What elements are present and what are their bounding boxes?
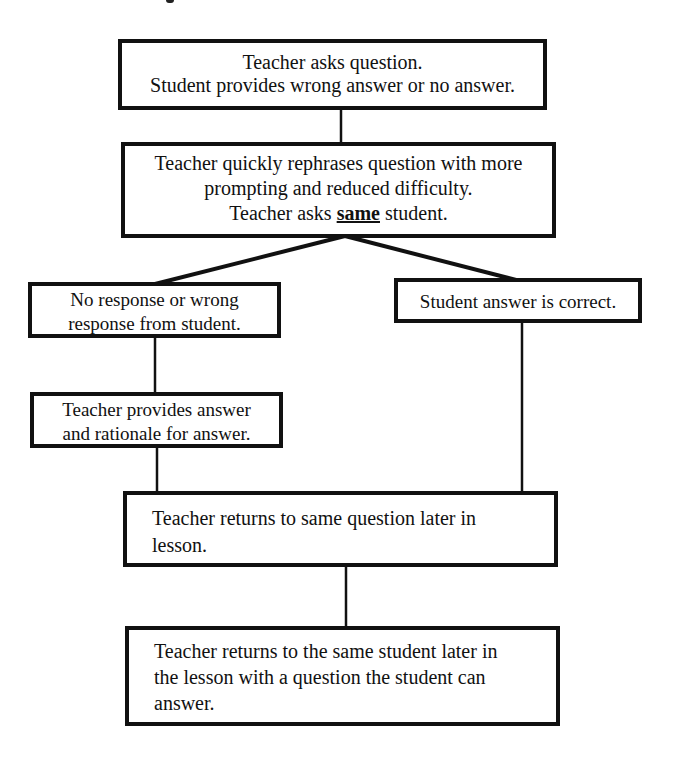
node-wrong-response: No response or wrong response from stude… — [28, 282, 281, 338]
node-text: No response or wrong — [32, 288, 277, 312]
node-text: the lesson with a question the student c… — [154, 664, 556, 690]
node-text: Teacher asks question. — [122, 51, 543, 74]
node-teacher-rephrases: Teacher quickly rephrases question with … — [121, 142, 556, 238]
node-text: response from student. — [32, 312, 277, 336]
node-text: answer. — [154, 690, 556, 716]
node-text: Student provides wrong answer or no answ… — [122, 74, 543, 97]
node-return-same-question: Teacher returns to same question later i… — [123, 491, 558, 567]
node-answer-correct: Student answer is correct. — [394, 278, 642, 323]
node-text: and rationale for answer. — [34, 422, 279, 446]
edge-rephrase-correct — [345, 236, 520, 281]
node-text: prompting and reduced difficulty. — [125, 176, 552, 201]
node-teacher-provides-answer: Teacher provides answer and rationale fo… — [30, 392, 283, 448]
node-text: lesson. — [152, 532, 554, 559]
emphasis-same: same — [337, 202, 380, 224]
node-return-same-student: Teacher returns to the same student late… — [125, 626, 560, 726]
node-teacher-asks-question: Teacher asks question. Student provides … — [118, 39, 547, 110]
node-text: Teacher returns to same question later i… — [152, 505, 554, 532]
edge-rephrase-wrong — [155, 236, 345, 284]
node-text: Teacher asks same student. — [125, 201, 552, 226]
node-text: Student answer is correct. — [398, 290, 638, 313]
node-text: Teacher quickly rephrases question with … — [125, 151, 552, 176]
node-text: Teacher returns to the same student late… — [154, 638, 556, 664]
node-text: Teacher provides answer — [34, 398, 279, 422]
